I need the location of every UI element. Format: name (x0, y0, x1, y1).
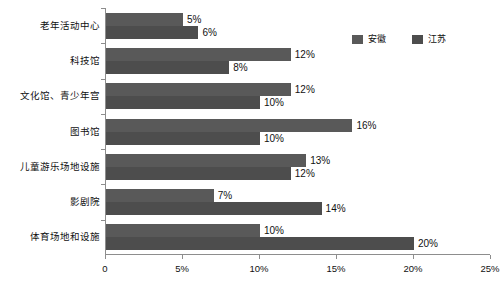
y-tick (101, 149, 105, 150)
category-label: 影剧院 (2, 196, 100, 207)
category-label: 图书馆 (2, 126, 100, 137)
x-tick (259, 255, 260, 259)
y-tick (101, 114, 105, 115)
x-tick (105, 255, 106, 259)
bar-group: 图书馆16%10% (105, 119, 490, 145)
category-label: 文化馆、青少年宫 (2, 90, 100, 101)
bar-value-anhui: 13% (310, 156, 330, 166)
bar-anhui (106, 119, 352, 132)
bar-anhui (106, 154, 306, 167)
bar-value-anhui: 16% (356, 121, 376, 131)
bar-anhui (106, 189, 214, 202)
plot-area: 老年活动中心5%6%科技馆12%8%文化馆、青少年宫12%10%图书馆16%10… (105, 8, 490, 255)
bar-jiangsu (106, 202, 322, 215)
bar-value-anhui: 7% (218, 191, 232, 201)
x-tick-label: 5% (175, 264, 189, 274)
bar-jiangsu (106, 26, 198, 39)
bar-value-jiangsu: 12% (295, 169, 315, 179)
bar-group: 影剧院7%14% (105, 189, 490, 215)
y-tick (101, 8, 105, 9)
bar-anhui (106, 48, 291, 61)
bar-value-anhui: 12% (295, 85, 315, 95)
x-tick-label: 20% (403, 264, 422, 274)
bar-group: 儿童游乐场地设施13%12% (105, 154, 490, 180)
bar-value-jiangsu: 10% (264, 134, 284, 144)
x-tick-label: 0 (102, 264, 107, 274)
bar-value-anhui: 10% (264, 226, 284, 236)
x-tick (413, 255, 414, 259)
y-tick (101, 184, 105, 185)
bar-value-anhui: 5% (187, 15, 201, 25)
y-tick (101, 220, 105, 221)
bar-group: 老年活动中心5%6% (105, 13, 490, 39)
bar-jiangsu (106, 96, 260, 109)
bar-group: 文化馆、青少年宫12%10% (105, 83, 490, 109)
category-label: 老年活动中心 (2, 20, 100, 31)
bar-group: 科技馆12%8% (105, 48, 490, 74)
bar-jiangsu (106, 61, 229, 74)
x-tick (490, 255, 491, 259)
bar-group: 体育场地和设施10%20% (105, 224, 490, 250)
category-label: 科技馆 (2, 55, 100, 66)
bar-value-anhui: 12% (295, 50, 315, 60)
category-label: 体育场地和设施 (2, 231, 100, 242)
category-label: 儿童游乐场地设施 (2, 161, 100, 172)
bar-value-jiangsu: 14% (326, 204, 346, 214)
bar-value-jiangsu: 6% (202, 28, 216, 38)
x-tick (336, 255, 337, 259)
x-axis-line (105, 254, 490, 255)
x-tick (182, 255, 183, 259)
bar-value-jiangsu: 20% (418, 239, 438, 249)
bar-anhui (106, 224, 260, 237)
bar-jiangsu (106, 132, 260, 145)
bar-jiangsu (106, 237, 414, 250)
bar-value-jiangsu: 8% (233, 63, 247, 73)
y-tick (101, 79, 105, 80)
bar-anhui (106, 83, 291, 96)
x-tick-label: 10% (249, 264, 268, 274)
bar-jiangsu (106, 167, 291, 180)
bar-anhui (106, 13, 183, 26)
x-tick-label: 25% (480, 264, 499, 274)
y-tick (101, 43, 105, 44)
bar-value-jiangsu: 10% (264, 98, 284, 108)
x-tick-label: 15% (326, 264, 345, 274)
